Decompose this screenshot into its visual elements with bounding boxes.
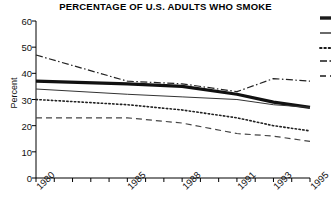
chart-container: PERCENTAGE OF U.S. ADULTS WHO SMOKE Perc…	[0, 0, 331, 221]
plot-area	[0, 0, 331, 221]
line-series-5	[36, 118, 310, 142]
line-series-3	[36, 89, 310, 107]
line-series-2	[36, 81, 310, 107]
